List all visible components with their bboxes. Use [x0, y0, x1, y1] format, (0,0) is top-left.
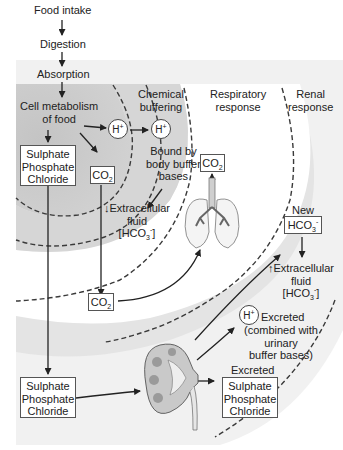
digestion-label: Digestion	[40, 38, 86, 51]
anions-box-excreted: Sulphate Phosphate Chloride	[222, 377, 278, 418]
absorption-label: Absorption	[37, 68, 90, 81]
respiratory-response-heading: Respiratory response	[210, 88, 266, 113]
renal-response-heading: Renal response	[288, 88, 333, 113]
h-plus-ion-buffered: H+	[151, 119, 171, 139]
h-plus-excreted-label: Excreted	[246, 311, 304, 324]
food-intake-label: Food intake	[34, 4, 91, 17]
bound-by-buffer-label: Bound by body buffer bases	[146, 145, 201, 183]
co2-box-cell: CO2	[90, 166, 115, 184]
h-plus-ion-cell: H+	[108, 119, 128, 139]
anions-excreted-label: Excreted	[231, 364, 274, 377]
h-plus-excreted-detail: (combined with urinary buffer bases)	[244, 324, 318, 362]
hco3-box-new: HCO3-	[284, 216, 322, 234]
new-hco3-label: New	[292, 204, 314, 217]
cell-metabolism-label: Cell metabolism of food	[20, 100, 98, 125]
anions-box-plasma: Sulphate Phosphate Chloride	[20, 377, 76, 418]
anions-box-cell: Sulphate Phosphate Chloride	[20, 145, 76, 186]
ecf-hco3-decreased-label: ↓Extracellular fluid [HCO3-]	[104, 202, 170, 240]
co2-box-exhaled: CO2	[200, 154, 225, 172]
co2-box-ecf: CO2	[88, 293, 114, 311]
ecf-hco3-increased-label: ↑Extracellular fluid [HCO3-]	[268, 262, 334, 300]
chemical-buffering-heading: Chemical buffering	[138, 88, 184, 113]
acid-base-diagram: Food intake Digestion Absorption Cell me…	[0, 0, 343, 450]
